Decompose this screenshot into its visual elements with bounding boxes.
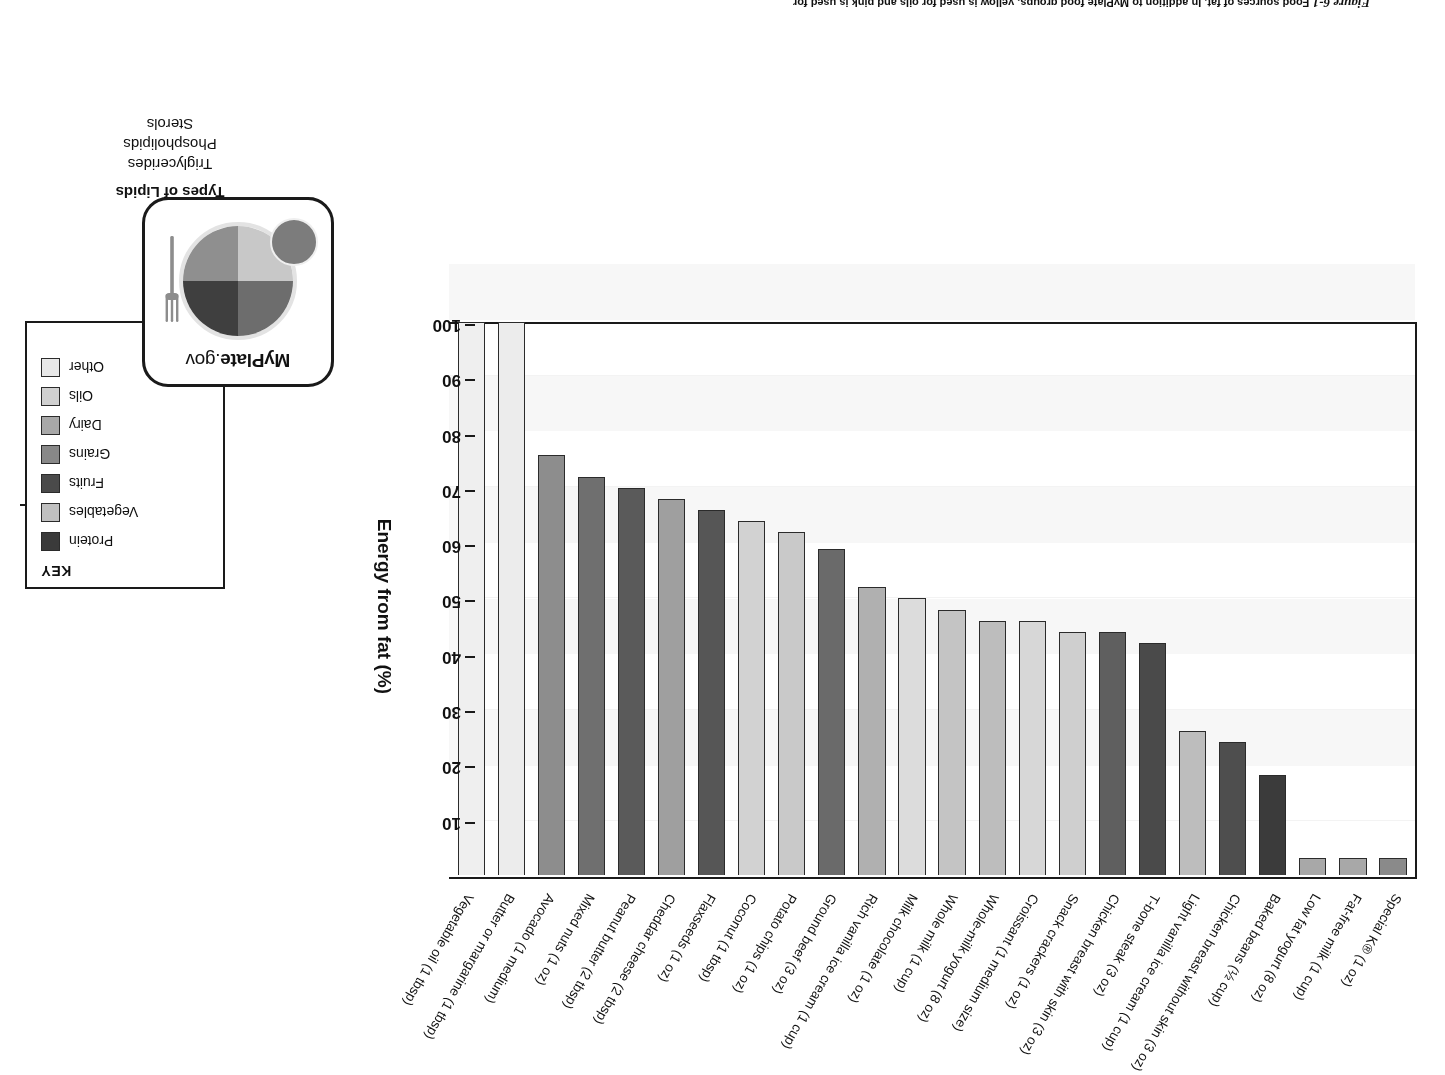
bar[interactable] xyxy=(1339,858,1366,875)
legend-item-fruits[interactable]: Fruits xyxy=(41,469,215,498)
figure-caption-text: Food sources of fat. In addition to MyPl… xyxy=(793,0,1309,9)
bar-cell xyxy=(531,324,571,875)
bar[interactable] xyxy=(1179,731,1206,875)
bar-cell xyxy=(1213,324,1253,875)
bar[interactable] xyxy=(1019,621,1046,875)
legend-swatch-icon xyxy=(41,387,60,406)
bar[interactable] xyxy=(1219,742,1246,875)
bar-cell xyxy=(1173,324,1213,875)
types-of-lipids-title: Types of Lipids xyxy=(20,184,320,201)
legend-swatch-icon xyxy=(41,416,60,435)
myplate-domain: .gov xyxy=(186,350,221,371)
bar-cell xyxy=(491,324,531,875)
y-axis-tick-label: 40 xyxy=(442,649,461,666)
bar-cell xyxy=(1092,324,1132,875)
x-axis-label: Whole-milk yogurt (8 oz) xyxy=(916,892,1001,1025)
bar[interactable] xyxy=(1379,858,1406,875)
legend-swatch-icon xyxy=(41,532,60,551)
legend-item-label: Dairy xyxy=(69,418,102,434)
legend-swatch-icon xyxy=(41,358,60,377)
bar[interactable] xyxy=(858,587,885,875)
bar[interactable] xyxy=(1059,632,1086,875)
legend-item-dairy[interactable]: Dairy xyxy=(41,411,215,440)
bar[interactable] xyxy=(818,549,845,875)
bar-cell xyxy=(1253,324,1293,875)
legend-item-label: Other xyxy=(69,360,104,376)
bar-series xyxy=(449,324,1415,875)
plate-quadrant-protein xyxy=(183,279,238,336)
y-axis-tick xyxy=(465,711,475,713)
x-axis-label: Vegetable oil (1 tbsp) xyxy=(401,892,476,1009)
bar-cell xyxy=(892,324,932,875)
y-axis-tick xyxy=(465,324,475,326)
y-axis-tick-label: 90 xyxy=(442,373,461,390)
bar[interactable] xyxy=(778,532,805,875)
legend-swatch-icon xyxy=(41,503,60,522)
y-axis-tick-label: 20 xyxy=(442,760,461,777)
lipid-type-item: Sterols xyxy=(20,114,320,134)
bar[interactable] xyxy=(698,510,725,875)
figure-caption: Figure 6-1 Food sources of fat. In addit… xyxy=(230,0,1370,10)
legend-item-label: Grains xyxy=(69,447,110,463)
myplate-brand: MyPlate xyxy=(221,350,291,371)
bar-cell xyxy=(571,324,611,875)
bar[interactable] xyxy=(658,499,685,875)
bar[interactable] xyxy=(538,455,565,875)
bar[interactable] xyxy=(979,621,1006,875)
y-axis-tick-label: 30 xyxy=(442,705,461,722)
y-axis-tick xyxy=(465,656,475,658)
x-axis-label: Snack crackers (1 oz) xyxy=(1004,892,1081,1012)
y-axis-title-text: Energy from fat (%) xyxy=(373,518,395,693)
y-axis-tick xyxy=(465,435,475,437)
bar-cell xyxy=(692,324,732,875)
legend-item-label: Vegetables xyxy=(69,505,138,521)
plot-area xyxy=(449,322,1417,879)
types-of-lipids-items: TriglyceridesPhospholipidsSterols xyxy=(20,114,320,174)
legend-item-protein[interactable]: Protein xyxy=(41,527,215,556)
right-panel: KEY ProteinVegetablesFruitsGrainsDairyOi… xyxy=(0,0,340,911)
plate-quadrant-fruits xyxy=(183,226,238,281)
y-axis-title: Energy from fat (%) xyxy=(373,322,395,890)
plate-quadrant-grains xyxy=(236,279,293,336)
y-axis-tick-label: 10 xyxy=(442,815,461,832)
figure-number: Figure 6-1 xyxy=(1313,0,1370,11)
plate-dairy-circle xyxy=(270,218,318,266)
bar[interactable] xyxy=(618,488,645,875)
bar-cell xyxy=(972,324,1012,875)
plot-band xyxy=(449,264,1415,320)
y-axis-tick xyxy=(465,379,475,381)
y-axis-tick xyxy=(465,601,475,603)
x-axis-label: Baked beans (½ cup) xyxy=(1207,892,1283,1010)
bar[interactable] xyxy=(578,477,605,875)
bar-cell xyxy=(932,324,972,875)
myplate-wordmark: MyPlate.gov xyxy=(145,349,331,371)
types-of-lipids: Types of Lipids TriglyceridesPhospholipi… xyxy=(20,114,320,201)
bar[interactable] xyxy=(738,521,765,875)
bar[interactable] xyxy=(1139,643,1166,875)
legend-item-vegetables[interactable]: Vegetables xyxy=(41,498,215,527)
bar-cell xyxy=(611,324,651,875)
lipid-type-item: Phospholipids xyxy=(20,134,320,154)
fork-icon xyxy=(165,236,179,322)
y-axis-tick-label: 80 xyxy=(442,428,461,445)
y-axis-tick xyxy=(465,490,475,492)
legend-item-label: Fruits xyxy=(69,476,104,492)
myplate-badge: MyPlate.gov xyxy=(142,197,334,387)
bar[interactable] xyxy=(1099,632,1126,875)
bar-cell xyxy=(732,324,772,875)
bar[interactable] xyxy=(1299,858,1326,875)
bar[interactable] xyxy=(898,599,925,876)
y-axis-tick-label: 60 xyxy=(442,539,461,556)
bar[interactable] xyxy=(498,322,525,875)
legend-item-label: Protein xyxy=(69,534,113,550)
bar-chart xyxy=(449,322,1417,890)
bar[interactable] xyxy=(938,610,965,875)
bar-cell xyxy=(1012,324,1052,875)
legend-title: KEY xyxy=(41,563,215,579)
legend-item-grains[interactable]: Grains xyxy=(41,440,215,469)
bar[interactable] xyxy=(1259,775,1286,875)
bar-cell xyxy=(812,324,852,875)
lipid-type-item: Triglycerides xyxy=(20,154,320,174)
y-axis-tick-label: 50 xyxy=(442,594,461,611)
y-axis-tick xyxy=(465,822,475,824)
